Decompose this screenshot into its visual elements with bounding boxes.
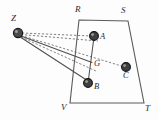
dashed-ray-group [21, 33, 122, 71]
node-z[interactable] [13, 28, 22, 37]
segment-a-to-b [88, 39, 93, 81]
solid-segment-group [21, 36, 94, 80]
ray-z-to-a [22, 33, 91, 36]
vertex-label-r: R [75, 5, 81, 14]
point-label-b: B [94, 82, 99, 91]
node-b[interactable] [84, 79, 93, 88]
vertex-label-t: T [145, 104, 150, 113]
geometry-diagram: R S T V Z A G B C [0, 0, 159, 120]
vertex-label-s: S [121, 6, 126, 15]
ray-z-to-lower [21, 37, 96, 71]
node-a[interactable] [90, 32, 99, 41]
ray-z-to-c [21, 36, 122, 67]
point-label-c: C [123, 71, 129, 80]
diagram-canvas [0, 0, 159, 120]
point-label-a: A [100, 32, 105, 41]
point-label-g: G [94, 59, 100, 68]
vertex-label-v: V [61, 103, 67, 112]
point-label-z: Z [11, 14, 16, 23]
